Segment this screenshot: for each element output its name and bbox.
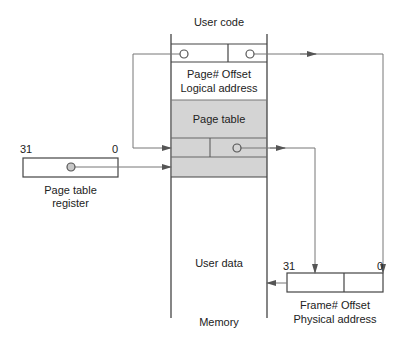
register-label-line1: Page table <box>23 184 118 197</box>
physical-bit-low: 0 <box>377 260 383 272</box>
memory-label: Memory <box>171 316 267 329</box>
register-node <box>67 163 75 171</box>
physical-address-box <box>287 273 383 292</box>
physical-bit-high: 31 <box>283 260 295 272</box>
offset-node <box>246 50 254 58</box>
page-number-node <box>180 50 188 58</box>
physical-address-label: Physical address <box>287 313 383 326</box>
offset-wire <box>250 54 383 273</box>
logical-address-label: Logical address <box>171 82 267 95</box>
page-table-label: Page table <box>171 113 267 126</box>
user-data-label: User data <box>171 257 267 270</box>
register-bit-low: 0 <box>112 143 118 155</box>
user-code-label: User code <box>171 16 267 29</box>
logical-address-fields-label: Page# Offset <box>171 68 267 81</box>
frame-node <box>233 144 241 152</box>
register-label-line2: register <box>23 197 118 210</box>
diagram-canvas <box>0 0 406 346</box>
physical-address-fields-label: Frame# Offset <box>287 299 383 312</box>
register-bit-high: 31 <box>20 143 32 155</box>
